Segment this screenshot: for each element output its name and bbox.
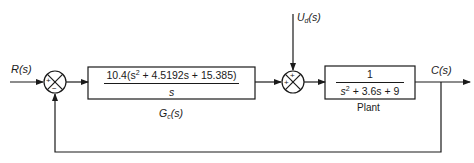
plant-label: Plant: [357, 102, 380, 113]
plant-numerator: 1: [336, 69, 404, 83]
disturbance-label: Ud(s): [297, 11, 321, 23]
junction-1-minus-sign: −: [52, 85, 57, 93]
junction-2-top-plus-sign: +: [290, 72, 295, 80]
plant-denominator: s2 + 3.6s + 9: [336, 83, 404, 97]
plant-transfer-function: 1 s2 + 3.6s + 9: [336, 69, 404, 96]
controller-label: Gc(s): [159, 107, 183, 119]
controller-numerator: 10.4(s2 + 4.5192s + 15.385): [104, 70, 239, 84]
input-label: R(s): [11, 63, 32, 75]
controller-denominator: s: [100, 84, 243, 98]
junction-1-plus-sign: +: [46, 77, 51, 85]
output-label: C(s): [431, 64, 452, 76]
junction-2-left-plus-sign: +: [284, 79, 289, 87]
controller-transfer-function: 10.4(s2 + 4.5192s + 15.385) s: [100, 70, 243, 97]
